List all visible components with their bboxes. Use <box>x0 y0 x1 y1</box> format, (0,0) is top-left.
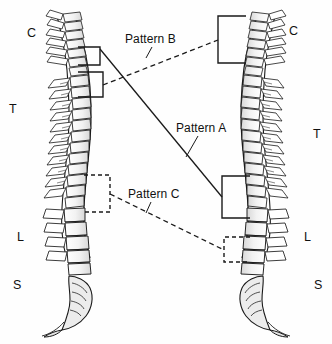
left-spine-label-lumbar: L <box>17 231 24 244</box>
pattern-b-label: Pattern B <box>125 33 176 45</box>
left-spine-label-sacral: S <box>13 279 21 292</box>
spine-pattern-figure: Pattern B Pattern A Pattern C C T L S C … <box>0 0 332 344</box>
left-spine-illustration <box>42 10 92 337</box>
leader-pattern-b <box>146 47 152 58</box>
connector-pattern-c <box>110 194 224 250</box>
right-spine-label-sacral: S <box>314 279 322 292</box>
left-spine-label-cervical: C <box>27 27 36 40</box>
right-spine-label-lumbar: L <box>304 231 311 244</box>
left-spine-label-thoracic: T <box>9 103 17 116</box>
right-spine-label-cervical: C <box>289 25 298 38</box>
leader-pattern-c <box>146 202 151 213</box>
pattern-a-label: Pattern A <box>176 122 226 134</box>
leader-pattern-a <box>186 136 198 157</box>
diagram-canvas <box>0 0 332 344</box>
connector-pattern-b <box>103 40 218 85</box>
bracket-right-cervicothoracic <box>218 16 246 63</box>
right-spine-label-thoracic: T <box>313 128 321 141</box>
pattern-c-label: Pattern C <box>128 188 180 200</box>
right-spine-illustration <box>240 10 290 337</box>
bracket-left-dashed <box>84 175 110 212</box>
